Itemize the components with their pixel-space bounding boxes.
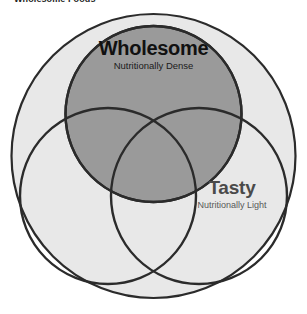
diagram-page: Wholesome Foods Wholesome Nutritionally … [0, 0, 307, 314]
set-label-wholesome: Wholesome Nutritionally Dense [0, 38, 307, 72]
set-label-wholesome-title: Wholesome [0, 38, 307, 59]
set-label-tasty: Tasty Nutritionally Light [170, 178, 294, 210]
set-label-tasty-title: Tasty [170, 178, 294, 198]
set-label-tasty-subtitle: Nutritionally Light [170, 200, 294, 210]
set-label-wholesome-subtitle: Nutritionally Dense [0, 61, 307, 72]
